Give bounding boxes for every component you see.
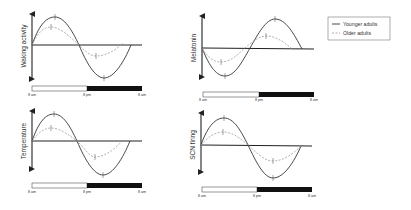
- younger-adults-line: [32, 114, 130, 175]
- dark-period: [87, 183, 142, 188]
- panel-scn-firing: SCN firing 8 am 8 pm 8 am: [189, 113, 316, 198]
- older-adults-line: [32, 128, 122, 157]
- y-axis-label: Temperature: [20, 122, 28, 159]
- peak-markers: [51, 111, 103, 178]
- x-tick: 8 pm: [83, 93, 91, 97]
- legend: Younger adults Older adults: [328, 17, 390, 40]
- peak-markers: [221, 16, 275, 79]
- younger-adults-line: [202, 19, 302, 76]
- light-period: [203, 92, 259, 97]
- younger-adults-line: [201, 118, 301, 178]
- dark-period: [259, 92, 314, 97]
- x-tick: 8 pm: [255, 98, 263, 102]
- light-period: [32, 86, 87, 91]
- figure-canvas: Waking activity 8 am 8 pm 8 am Melatonin: [0, 0, 411, 210]
- y-axis-label: SCN firing: [189, 130, 197, 160]
- peak-markers: [223, 115, 273, 181]
- y-axis-label: Waking activity: [20, 24, 28, 68]
- light-dark-bar: [203, 92, 314, 97]
- baseline: [202, 48, 314, 49]
- dark-period: [257, 187, 312, 192]
- x-tick: 8 pm: [253, 194, 261, 198]
- legend-label-older: Older adults: [343, 30, 371, 36]
- light-period: [202, 187, 257, 192]
- light-dark-bar: [32, 183, 142, 188]
- peak-markers: [51, 14, 104, 81]
- legend-label-younger: Younger adults: [343, 21, 378, 27]
- baseline: [201, 145, 312, 146]
- panel-melatonin: Melatonin 8 am 8 pm 8 am: [190, 16, 318, 102]
- x-tick: 8 pm: [83, 190, 91, 194]
- x-tick: 8 am: [138, 93, 146, 97]
- panel-temperature: Temperature 8 am 8 pm 8 am: [20, 111, 146, 194]
- x-tick: 8 am: [28, 190, 36, 194]
- x-tick: 8 am: [308, 194, 316, 198]
- light-dark-bar: [202, 187, 312, 192]
- x-tick: 8 am: [198, 194, 206, 198]
- x-tick: 8 am: [199, 98, 207, 102]
- x-tick: 8 am: [310, 98, 318, 102]
- light-period: [32, 183, 87, 188]
- x-tick: 8 am: [28, 93, 36, 97]
- y-axis-label: Melatonin: [190, 34, 197, 63]
- x-tick: 8 am: [138, 190, 146, 194]
- panel-waking-activity: Waking activity 8 am 8 pm 8 am: [20, 14, 146, 97]
- older-adults-line: [201, 132, 301, 161]
- light-dark-bar: [32, 86, 142, 91]
- dark-period: [87, 86, 142, 91]
